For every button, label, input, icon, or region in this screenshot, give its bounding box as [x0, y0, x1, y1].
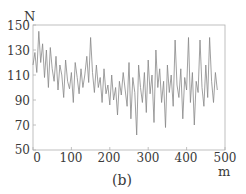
x-tick-label-300: 300 [133, 152, 163, 164]
x-tick-label-500: 500 [210, 152, 240, 164]
figure-caption: (b) [112, 172, 132, 188]
x-tick-label-400: 400 [171, 152, 201, 164]
chart: N 150 130 110 90 70 50 0 100 200 300 400… [0, 0, 246, 194]
y-tick-label-150: 150 [2, 20, 30, 32]
x-tick-label-0: 0 [22, 152, 52, 164]
y-tick-label-70: 70 [2, 120, 30, 132]
y-tick-label-90: 90 [2, 95, 30, 107]
x-tick-label-100: 100 [56, 152, 86, 164]
x-tick-label-200: 200 [94, 152, 124, 164]
x-axis-title: m [218, 164, 230, 179]
y-tick-label-110: 110 [2, 70, 30, 82]
y-tick-label-130: 130 [2, 45, 30, 57]
data-series-line [33, 31, 217, 135]
